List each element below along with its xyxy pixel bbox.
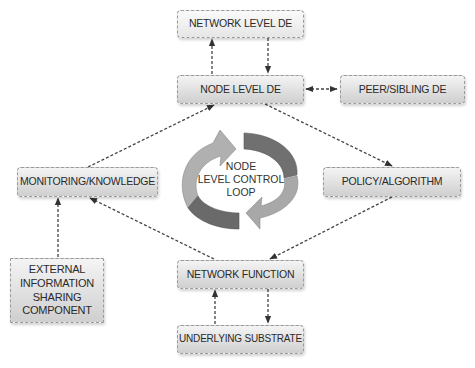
monitoring-knowledge-label: MONITORING/KNOWLEDGE <box>20 175 155 188</box>
external-information-label: EXTERNAL INFORMATION SHARING COMPONENT <box>15 263 99 318</box>
node-level-de-node: NODE LEVEL DE <box>177 75 304 104</box>
peer-sibling-de-label: PEER/SIBLING DE <box>359 83 446 96</box>
network-function-label: NETWORK FUNCTION <box>187 268 295 281</box>
network-function-node: NETWORK FUNCTION <box>177 260 304 289</box>
peer-sibling-de-node: PEER/SIBLING DE <box>340 75 465 104</box>
control-loop-label: NODE LEVEL CONTROL LOOP <box>185 160 297 198</box>
edge-policy-to-function <box>270 197 392 259</box>
loop-label-line2: LEVEL CONTROL <box>185 173 297 186</box>
loop-label-line1: NODE <box>185 160 297 173</box>
loop-label-line3: LOOP <box>185 186 297 199</box>
loop-arrow-dark-bottom <box>188 196 239 229</box>
monitoring-knowledge-node: MONITORING/KNOWLEDGE <box>17 167 158 197</box>
network-level-de-node: NETWORK LEVEL DE <box>177 10 304 38</box>
network-level-de-label: NETWORK LEVEL DE <box>189 17 292 30</box>
underlying-substrate-label: UNDERLYING SUBSTRATE <box>179 333 302 346</box>
external-information-sharing-component-node: EXTERNAL INFORMATION SHARING COMPONENT <box>10 258 104 323</box>
policy-algorithm-label: POLICY/ALGORITHM <box>342 175 443 188</box>
underlying-substrate-node: UNDERLYING SUBSTRATE <box>177 325 304 354</box>
policy-algorithm-node: POLICY/ALGORITHM <box>323 167 461 197</box>
node-level-de-label: NODE LEVEL DE <box>200 83 280 96</box>
